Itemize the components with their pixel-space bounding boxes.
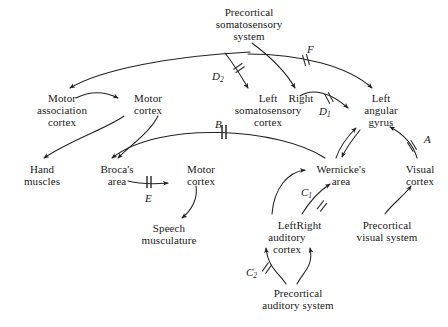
node-line: visual system: [340, 231, 434, 243]
node-line: cortex: [118, 104, 178, 116]
edge-precortical-somatosensory-to-left-somatosensory-cortex: [225, 53, 248, 88]
edge-label-C1: C1: [301, 186, 312, 200]
edge-label-text: A: [424, 133, 431, 145]
node-brocas-area: Broca's area: [90, 163, 144, 187]
node-precortical-auditory-system: Precortical auditory system: [245, 287, 351, 311]
node-left-angular-gyrus: Left angular gyrus: [352, 92, 410, 129]
node-line: cortex: [396, 175, 444, 187]
node-speech-musculature: Speech musculature: [124, 222, 214, 246]
node-line: auditory: [252, 231, 322, 243]
cut-mark-D2: [233, 63, 244, 73]
node-line: musculature: [124, 234, 214, 246]
node-line: cortex: [172, 175, 230, 187]
edge-label-text: D: [212, 70, 220, 82]
node-line: muscles: [10, 175, 74, 187]
node-line: Hand: [10, 163, 74, 175]
node-line: system: [184, 30, 314, 42]
node-line: Broca's: [90, 163, 144, 175]
node-motor-cortex-upper: Motor cortex: [118, 92, 178, 116]
node-line: somatosensory: [222, 104, 314, 116]
node-line: cortex: [252, 243, 322, 255]
node-line: auditory system: [245, 299, 351, 311]
edge-wernickes-area-to-brocas-area: [112, 132, 325, 158]
node-precortical-visual-system: Precortical visual system: [340, 219, 434, 243]
edge-label-subscript: 1: [308, 191, 312, 200]
edge-label-C2: C2: [246, 266, 257, 280]
edge-precortical-visual-system-to-visual-cortex: [385, 186, 411, 214]
node-line: Motor: [118, 92, 178, 104]
edge-label-subscript: 2: [220, 75, 224, 84]
node-line: Visual: [396, 163, 444, 175]
edge-label-subscript: 1: [327, 110, 331, 119]
node-line: Motor: [172, 163, 230, 175]
node-right-auditory: Right: [290, 219, 328, 231]
node-line: association: [12, 104, 112, 116]
node-line: somatosensory: [184, 18, 314, 30]
node-right-somatosensory: Right: [282, 92, 320, 104]
node-line: area: [90, 175, 144, 187]
edge-motor-cortex-to-brocas-area: [118, 116, 158, 158]
node-line: area: [304, 175, 378, 187]
cut-mark-E: [147, 176, 151, 188]
edge-label-D2: D2: [212, 70, 224, 84]
node-line: Precortical: [184, 6, 314, 18]
node-line: Right: [290, 219, 328, 231]
edge-precortical-somatosensory-to-left-angular-gyrus: [248, 54, 372, 88]
edge-label-D1: D1: [319, 105, 331, 119]
edge-visual-cortex-to-left-angular-gyrus: [390, 127, 417, 158]
node-motor-association-cortex: Motor association cortex: [12, 92, 112, 129]
edge-precortical-somatosensory-to-right-somatosensory: [252, 43, 295, 88]
node-visual-cortex: Visual cortex: [396, 163, 444, 187]
node-line: Precortical: [245, 287, 351, 299]
node-line: Motor: [12, 92, 112, 104]
edge-label-B: B: [215, 118, 222, 130]
node-precortical-somatosensory-system: Precortical somatosensory system: [184, 6, 314, 43]
node-line: Left: [352, 92, 410, 104]
node-line: Wernicke's: [304, 163, 378, 175]
edge-wernickes-area-to-left-angular-gyrus: [336, 128, 356, 158]
edge-label-subscript: 2: [253, 271, 257, 280]
node-line: gyrus: [352, 116, 410, 128]
node-line: cortex: [222, 116, 314, 128]
edge-motor-cortex-lower-to-speech-musculature: [182, 186, 196, 218]
edge-label-text: F: [307, 43, 314, 55]
edge-label-A: A: [424, 133, 431, 145]
diagram-canvas: Precortical somatosensory system Motor a…: [0, 0, 448, 327]
cut-mark-F: [303, 54, 310, 66]
node-hand-muscles: Hand muscles: [10, 163, 74, 187]
node-wernickes-area: Wernicke's area: [304, 163, 378, 187]
edge-label-E: E: [145, 192, 152, 204]
node-line: Speech: [124, 222, 214, 234]
edge-label-text: E: [145, 192, 152, 204]
edge-label-text: D: [319, 105, 327, 117]
cut-mark-C1: [317, 200, 327, 211]
node-line: cortex: [12, 116, 112, 128]
node-motor-cortex-lower: Motor cortex: [172, 163, 230, 187]
node-line: Precortical: [340, 219, 434, 231]
node-line: Right: [282, 92, 320, 104]
edge-label-text: B: [215, 118, 222, 130]
edge-label-F: F: [307, 43, 314, 55]
node-line: angular: [352, 104, 410, 116]
